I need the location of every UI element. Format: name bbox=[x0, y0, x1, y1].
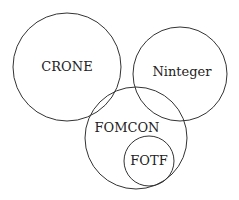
venn-diagram: CRONE Ninteger FOMCON FOTF bbox=[0, 0, 239, 200]
ninteger-label: Ninteger bbox=[152, 64, 212, 79]
fotf-label: FOTF bbox=[130, 153, 167, 168]
fomcon-label: FOMCON bbox=[95, 120, 160, 135]
fomcon-circle bbox=[85, 87, 187, 189]
crone-label: CRONE bbox=[41, 59, 92, 74]
